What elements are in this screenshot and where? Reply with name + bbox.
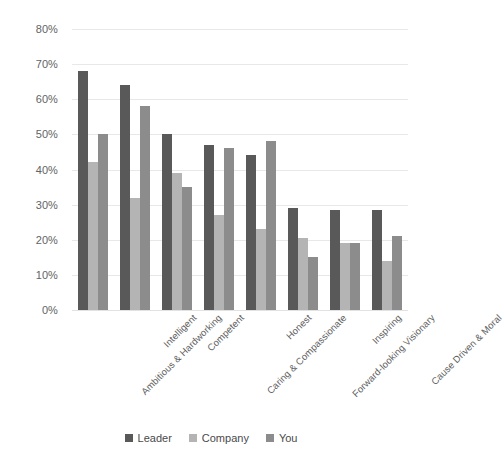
bar-company bbox=[130, 198, 140, 310]
bar-company bbox=[340, 243, 350, 310]
bar-company bbox=[88, 162, 98, 310]
bar-leader bbox=[204, 145, 214, 310]
legend-label: Company bbox=[202, 432, 249, 444]
bar-you bbox=[266, 141, 276, 310]
plot-area bbox=[72, 29, 408, 310]
x-axis-tick-label: Cause Driven & Moral bbox=[429, 312, 504, 387]
legend-label: You bbox=[279, 432, 298, 444]
y-axis-tick-label: 60% bbox=[36, 93, 58, 105]
x-axis-tick-label: Honest bbox=[284, 312, 313, 341]
y-axis-tick-label: 0% bbox=[42, 304, 58, 316]
bar-company bbox=[172, 173, 182, 310]
legend-swatch-icon bbox=[189, 434, 197, 442]
bar-group bbox=[282, 29, 324, 310]
bar-leader bbox=[246, 155, 256, 310]
bar-you bbox=[350, 243, 360, 310]
bar-group bbox=[114, 29, 156, 310]
legend-swatch-icon bbox=[125, 434, 133, 442]
y-axis: 0%10%20%30%40%50%60%70%80% bbox=[0, 29, 66, 310]
bar-you bbox=[308, 257, 318, 310]
y-axis-tick-label: 20% bbox=[36, 234, 58, 246]
bar-group bbox=[198, 29, 240, 310]
bar-you bbox=[140, 106, 150, 310]
chart-legend: LeaderCompanyYou bbox=[0, 432, 422, 444]
bar-group bbox=[324, 29, 366, 310]
bar-leader bbox=[372, 210, 382, 310]
legend-item[interactable]: Leader bbox=[125, 432, 172, 444]
bar-you bbox=[224, 148, 234, 310]
y-axis-tick-label: 70% bbox=[36, 58, 58, 70]
bar-you bbox=[182, 187, 192, 310]
bar-leader bbox=[78, 71, 88, 310]
bar-leader bbox=[120, 85, 130, 310]
bar-group bbox=[366, 29, 408, 310]
bar-you bbox=[392, 236, 402, 310]
bar-group bbox=[240, 29, 282, 310]
legend-swatch-icon bbox=[266, 434, 274, 442]
bar-leader bbox=[288, 208, 298, 310]
bar-company bbox=[382, 261, 392, 310]
bar-leader bbox=[162, 134, 172, 310]
bar-group bbox=[72, 29, 114, 310]
y-axis-tick-label: 40% bbox=[36, 164, 58, 176]
y-axis-tick-label: 30% bbox=[36, 199, 58, 211]
bar-company bbox=[256, 229, 266, 310]
bar-you bbox=[98, 134, 108, 310]
x-axis: Ambitious & HardworkingIntelligentCompet… bbox=[72, 310, 408, 420]
y-axis-tick-label: 10% bbox=[36, 269, 58, 281]
bar-company bbox=[214, 215, 224, 310]
bar-groups bbox=[72, 29, 408, 310]
y-axis-tick-label: 50% bbox=[36, 128, 58, 140]
bar-leader bbox=[330, 210, 340, 310]
bar-company bbox=[298, 238, 308, 310]
legend-item[interactable]: Company bbox=[189, 432, 249, 444]
legend-item[interactable]: You bbox=[266, 432, 298, 444]
legend-label: Leader bbox=[138, 432, 172, 444]
bar-group bbox=[156, 29, 198, 310]
y-axis-tick-label: 80% bbox=[36, 23, 58, 35]
